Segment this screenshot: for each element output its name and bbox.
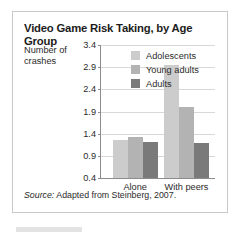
legend-swatch-icon xyxy=(131,65,140,74)
bar xyxy=(179,107,194,178)
legend-item: Adolescents xyxy=(131,50,199,61)
y-axis-tick xyxy=(98,112,101,113)
bar xyxy=(113,140,128,178)
y-axis-tick xyxy=(98,45,101,46)
y-axis-tick xyxy=(98,89,101,90)
legend-label: Adults xyxy=(146,79,172,89)
y-axis-caption: Number of crashes xyxy=(24,45,78,66)
legend-swatch-icon xyxy=(131,51,140,60)
bar xyxy=(143,142,158,178)
source-text: Adapted from Steinberg, 2007. xyxy=(54,190,176,200)
bottom-artifact-strip xyxy=(16,227,82,232)
y-axis-tick-label: 3.4 xyxy=(83,40,96,50)
figure-frame: Video Game Risk Taking, by Age Group Num… xyxy=(12,11,228,213)
y-axis-tick-label: 0.9 xyxy=(83,151,96,161)
source-label: Source: xyxy=(24,190,54,200)
chart-legend: AdolescentsYoung adultsAdults xyxy=(131,50,199,92)
y-axis-tick-label: 1.9 xyxy=(83,107,96,117)
y-axis-tick-label: 1.4 xyxy=(83,129,96,139)
legend-item: Adults xyxy=(131,78,199,89)
legend-item: Young adults xyxy=(131,64,199,75)
y-axis-tick xyxy=(98,156,101,157)
plot-wrapper: 3.42.92.41.91.40.90.4 AdolescentsYoung a… xyxy=(79,45,215,179)
bar xyxy=(128,137,143,178)
y-axis-tick xyxy=(98,178,101,179)
bar xyxy=(194,143,209,178)
legend-swatch-icon xyxy=(131,79,140,88)
source-note: Source: Adapted from Steinberg, 2007. xyxy=(24,190,176,200)
y-axis-tick-label: 0.4 xyxy=(83,173,96,183)
y-axis-tick xyxy=(98,67,101,68)
legend-label: Young adults xyxy=(146,65,199,75)
plot-area: 3.42.92.41.91.40.90.4 AdolescentsYoung a… xyxy=(100,45,215,179)
y-axis-tick-label: 2.9 xyxy=(83,62,96,72)
legend-label: Adolescents xyxy=(146,51,196,61)
y-axis-tick xyxy=(98,134,101,135)
y-axis-tick-label: 2.4 xyxy=(83,84,96,94)
